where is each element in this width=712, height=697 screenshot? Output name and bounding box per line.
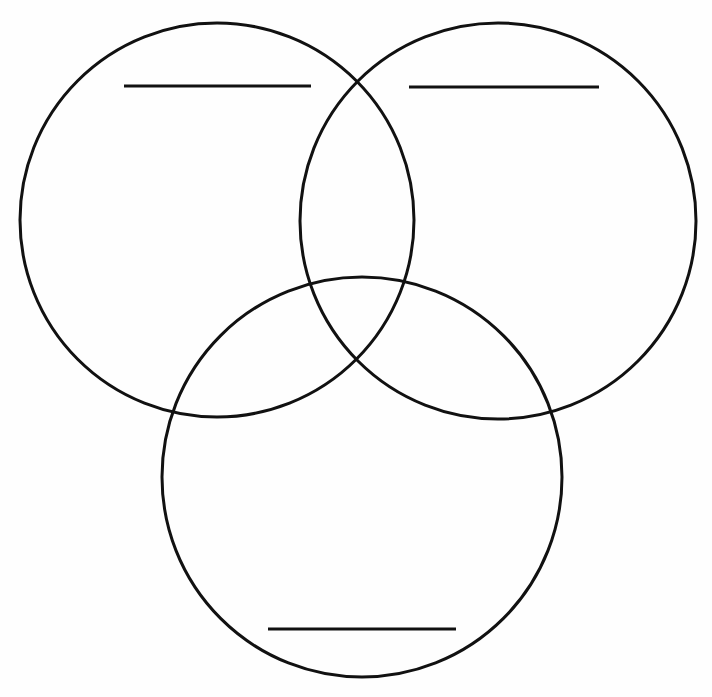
circle-bottom [162,277,562,677]
venn-diagram [0,0,712,697]
venn-diagram-canvas [0,0,712,697]
